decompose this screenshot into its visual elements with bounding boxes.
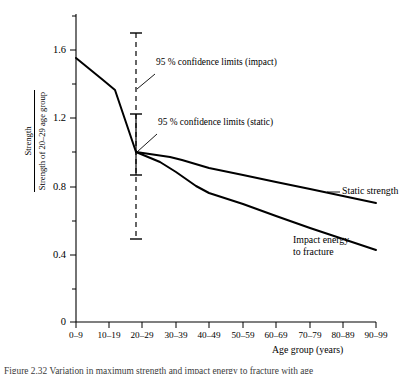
series-static-strength-curve xyxy=(76,58,376,203)
y-axis-label-denominator: Strength of 20–29 age group xyxy=(36,90,47,192)
x-tick-label-20-29: 20–29 xyxy=(123,330,161,340)
y-axis-label-fraction: Strength Strength of 20–29 age group xyxy=(23,90,47,192)
figure-container: Strength Strength of 20–29 age group 1.6… xyxy=(0,0,399,374)
fraction-bar xyxy=(34,90,35,192)
x-axis-title: Age group (years) xyxy=(272,345,343,356)
figure-caption: Figure 2.32 Variation in maximum strengt… xyxy=(4,366,396,374)
leader-line-impact-ci xyxy=(137,74,155,89)
curve-label-impact-energy-line2: to fracture xyxy=(293,247,334,258)
y-axis-major-ticks xyxy=(70,50,76,322)
y-tick-label-1-6: 1.6 xyxy=(42,44,66,56)
y-tick-label-1-2: 1.2 xyxy=(42,112,66,124)
y-axis-minor-ticks xyxy=(72,16,76,289)
error-bar-static-solid xyxy=(130,114,142,175)
curve-label-static-strength: Static strength xyxy=(342,186,398,197)
y-tick-label-0-8: 0.8 xyxy=(42,181,66,193)
y-tick-label-0-4: 0.4 xyxy=(42,249,66,261)
x-tick-label-40-49: 40–49 xyxy=(190,330,228,340)
x-tick-label-0-9: 0–9 xyxy=(59,330,93,340)
annotation-static-ci-label: 95 % confidence limits (static) xyxy=(158,117,273,128)
x-tick-label-90-99: 90–99 xyxy=(357,330,395,340)
x-tick-label-60-69: 60–69 xyxy=(257,330,295,340)
x-axis-ticks xyxy=(76,322,376,328)
y-tick-label-0: 0 xyxy=(42,316,66,328)
annotation-impact-ci-label: 95 % confidence limits (impact) xyxy=(156,57,277,68)
y-axis-label-numerator: Strength xyxy=(23,90,34,192)
leader-line-static-ci xyxy=(137,134,157,152)
curve-label-impact-energy-line1: Impact energy xyxy=(293,235,349,246)
